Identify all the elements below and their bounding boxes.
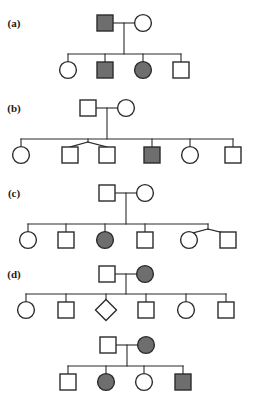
b-ii-2-square-symbol	[62, 147, 78, 163]
b-ii-3-square-symbol	[99, 147, 115, 163]
c-i-2-circle-symbol	[137, 185, 154, 202]
c-ii-5-spouse-square-symbol	[220, 232, 236, 248]
b-ii-6-square-symbol	[225, 147, 241, 163]
a-ii-3-circle-symbol	[135, 62, 152, 79]
c-ii-3-circle-symbol	[97, 232, 114, 249]
a-i-1-square-symbol	[97, 15, 113, 31]
pedigree-canvas: (a)(b)(c)(d)	[0, 0, 262, 401]
panel-c-label: (c)	[8, 187, 21, 200]
panel-b-label: (b)	[7, 102, 21, 115]
d-ii-1-circle-symbol	[18, 302, 35, 319]
d-ii-2-square-symbol	[58, 302, 74, 318]
d-iii-2-circle-symbol	[98, 374, 115, 391]
d-ii-4-partner-square-square-symbol	[100, 337, 116, 353]
d-i-2-circle-symbol	[137, 266, 154, 283]
a-ii-1-circle-symbol	[60, 62, 77, 79]
b-i-2-circle-symbol	[118, 100, 135, 117]
d-ii-5-circle-symbol	[178, 302, 195, 319]
figure-background	[0, 0, 262, 401]
c-ii-2-square-symbol	[58, 232, 74, 248]
d-iii-3-circle-symbol	[136, 374, 153, 391]
panel-a-label: (a)	[8, 17, 21, 30]
d-ii-4-spouse-circle-symbol	[138, 337, 155, 354]
a-ii-4-square-symbol	[173, 62, 189, 78]
b-i-1-square-symbol	[80, 100, 96, 116]
a-i-2-circle-symbol	[135, 15, 152, 32]
panel-d-label: (d)	[7, 268, 21, 281]
pedigree-figure: (a)(b)(c)(d)	[0, 0, 262, 401]
a-ii-2-square-symbol	[97, 62, 113, 78]
d-i-1-square-symbol	[99, 266, 115, 282]
b-ii-1-circle-symbol	[13, 147, 30, 164]
b-ii-5-circle-symbol	[182, 147, 199, 164]
d-ii-6-square-symbol	[218, 302, 234, 318]
c-ii-4-square-symbol	[137, 232, 153, 248]
c-ii-1-circle-symbol	[20, 232, 37, 249]
b-ii-4-square-symbol	[144, 147, 160, 163]
c-i-1-square-symbol	[99, 185, 115, 201]
d-iii-4-square-symbol	[175, 374, 191, 390]
d-ii-4-square-symbol	[138, 302, 154, 318]
d-iii-1-square-symbol	[60, 374, 76, 390]
c-ii-5-circle-symbol	[181, 232, 198, 249]
